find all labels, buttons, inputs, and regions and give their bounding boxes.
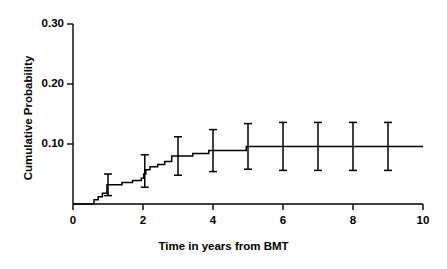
y-axis-title: Cumulative Probability	[22, 38, 34, 198]
x-axis-title: Time in years from BMT	[0, 240, 447, 252]
chart-figure: 0.100.200.30 0246810 Cumulative Probabil…	[0, 0, 447, 269]
x-tick-label: 8	[333, 214, 373, 226]
axis-ticks	[67, 24, 423, 210]
x-tick-label: 6	[263, 214, 303, 226]
x-tick-label: 2	[123, 214, 163, 226]
error-bars	[104, 122, 392, 195]
axis-lines	[73, 24, 423, 204]
chart-plot-area	[0, 0, 447, 269]
x-tick-label: 0	[53, 214, 93, 226]
x-tick-label: 10	[403, 214, 443, 226]
x-tick-label: 4	[193, 214, 233, 226]
y-tick-label: 0.30	[24, 17, 64, 29]
